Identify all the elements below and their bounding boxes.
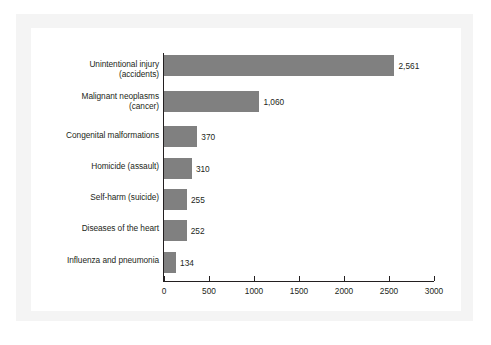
category-label: Malignant neoplasms (cancer) xyxy=(19,91,159,111)
category-label: Diseases of the heart xyxy=(19,223,159,233)
category-label-line: Unintentional injury xyxy=(19,59,159,69)
x-axis-tick-mark xyxy=(299,276,300,281)
x-axis-tick-label: 1500 xyxy=(274,286,324,296)
figure-root: Unintentional injury (accidents) Maligna… xyxy=(0,0,491,345)
bar xyxy=(164,252,176,273)
bar-value-label: 2,561 xyxy=(398,61,419,71)
x-axis-tick-label: 1000 xyxy=(229,286,279,296)
y-axis-line xyxy=(163,53,164,282)
x-axis-tick-mark xyxy=(164,276,165,281)
x-axis-tick-label: 0 xyxy=(139,286,189,296)
bar-value-label: 1,060 xyxy=(263,97,284,107)
x-axis-tick-mark xyxy=(389,276,390,281)
x-axis-tick-mark xyxy=(254,276,255,281)
x-axis-tick-label: 2500 xyxy=(364,286,414,296)
category-label-line: (cancer) xyxy=(19,101,159,111)
x-axis-tick-mark xyxy=(344,276,345,281)
category-label-line: (accidents) xyxy=(19,69,159,79)
category-label-line: Congenital malformations xyxy=(19,130,159,140)
category-label-line: Influenza and pneumonia xyxy=(19,255,159,265)
bar-value-label: 252 xyxy=(191,226,205,236)
x-axis-tick-label: 500 xyxy=(184,286,234,296)
category-label-line: Diseases of the heart xyxy=(19,223,159,233)
category-label: Homicide (assault) xyxy=(19,161,159,171)
category-label: Self-harm (suicide) xyxy=(19,192,159,202)
x-axis-tick-label: 2000 xyxy=(319,286,369,296)
bar xyxy=(164,220,187,241)
bar-value-label: 255 xyxy=(191,195,205,205)
bar-value-label: 310 xyxy=(196,164,210,174)
x-axis-tick-mark xyxy=(434,276,435,281)
category-label-line: Malignant neoplasms xyxy=(19,91,159,101)
x-axis-line xyxy=(163,281,434,282)
bar-value-label: 134 xyxy=(180,258,194,268)
category-label: Congenital malformations xyxy=(19,130,159,140)
category-label: Influenza and pneumonia xyxy=(19,255,159,265)
bar-chart: Unintentional injury (accidents) Maligna… xyxy=(0,0,491,345)
category-label-line: Homicide (assault) xyxy=(19,161,159,171)
bar xyxy=(164,189,187,210)
category-label-line: Self-harm (suicide) xyxy=(19,192,159,202)
bar xyxy=(164,91,259,112)
bar xyxy=(164,126,197,147)
bar-value-label: 370 xyxy=(201,132,215,142)
x-axis-tick-mark xyxy=(209,276,210,281)
category-label: Unintentional injury (accidents) xyxy=(19,59,159,79)
bar xyxy=(164,158,192,179)
x-axis-tick-label: 3000 xyxy=(409,286,459,296)
bar xyxy=(164,55,394,76)
